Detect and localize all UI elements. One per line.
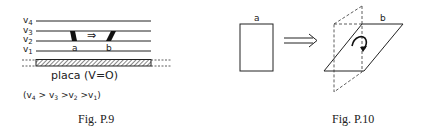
motion-arrow: ⇒ [87, 29, 96, 42]
figure-p9: v4 v3 v2 v1 ⇒ a b placa (V=O) (v4 > v3 >… [0, 0, 212, 136]
original-plane-dashed [334, 24, 362, 92]
plate [36, 60, 151, 67]
element-a-shape [70, 31, 77, 41]
label-b: b [380, 13, 386, 23]
label-a: a [72, 43, 78, 53]
rotation-diagram: a b [212, 0, 425, 136]
velocity-inequality: (v4 > v3 >v2 >v1) [23, 90, 101, 101]
element-a-rect [240, 24, 273, 71]
caption-fig-p9: Fig. P.9 [78, 112, 114, 127]
implies-arrow [309, 34, 317, 47]
caption-fig-p10: Fig. P.10 [332, 112, 374, 127]
label-b: b [106, 43, 112, 53]
plate-label: placa (V=O) [51, 69, 118, 82]
label-a: a [254, 13, 260, 23]
figure-p10: a b Fig. P.10 [212, 0, 425, 136]
element-b-shape [106, 31, 116, 41]
